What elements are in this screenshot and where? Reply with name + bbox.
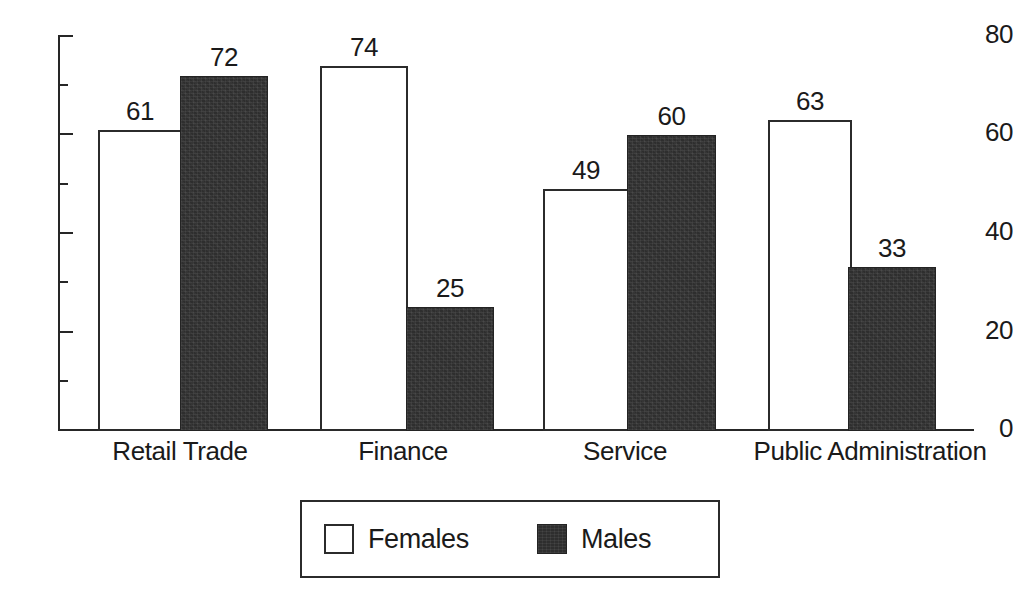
x-axis-label-finance: Finance bbox=[308, 436, 498, 466]
x-axis-label-service: Service bbox=[530, 436, 720, 466]
legend-entry-males[interactable]: Males bbox=[537, 524, 651, 554]
bar-finance-females[interactable] bbox=[320, 66, 408, 431]
chart-legend: Females Males bbox=[300, 500, 720, 578]
legend-entry-females[interactable]: Females bbox=[324, 524, 469, 554]
bar-value-retail-trade-females: 61 bbox=[100, 98, 180, 124]
bar-chart: 80 60 40 20 0 61 72 74 25 49 60 63 bbox=[0, 0, 1013, 599]
bar-value-finance-males: 25 bbox=[408, 275, 492, 301]
bar-value-public-administration-females: 63 bbox=[770, 88, 850, 114]
legend-label-females: Females bbox=[368, 524, 469, 554]
bar-value-retail-trade-males: 72 bbox=[182, 44, 266, 70]
bar-service-males[interactable] bbox=[627, 135, 716, 431]
legend-label-males: Males bbox=[581, 524, 651, 554]
bar-value-service-males: 60 bbox=[629, 103, 714, 129]
plot-area: 80 60 40 20 0 61 72 74 25 49 60 63 bbox=[0, 0, 1013, 470]
bar-value-finance-females: 74 bbox=[322, 34, 406, 60]
bar-finance-males[interactable] bbox=[406, 307, 494, 431]
open-square-swatch-icon bbox=[324, 524, 354, 554]
bar-public-administration-females[interactable] bbox=[768, 120, 852, 431]
bar-service-females[interactable] bbox=[543, 189, 629, 431]
bar-value-public-administration-males: 33 bbox=[850, 235, 934, 261]
bar-value-service-females: 49 bbox=[545, 157, 627, 183]
bar-retail-trade-males[interactable] bbox=[180, 76, 268, 431]
x-axis-label-public-administration: Public Administration bbox=[740, 436, 1000, 466]
bar-retail-trade-females[interactable] bbox=[98, 130, 182, 431]
bars-layer: 61 72 74 25 49 60 63 33 bbox=[0, 0, 1013, 431]
bar-public-administration-males[interactable] bbox=[848, 267, 936, 431]
x-axis-label-retail-trade: Retail Trade bbox=[80, 436, 280, 466]
filled-square-swatch-icon bbox=[537, 524, 567, 554]
